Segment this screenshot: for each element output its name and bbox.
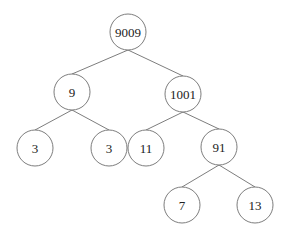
tree-node: 9009: [110, 14, 146, 50]
tree-edge: [146, 112, 183, 130]
node-label: 9009: [115, 25, 141, 40]
tree-node: 3: [91, 130, 127, 166]
node-label: 7: [179, 198, 186, 213]
tree-node: 91: [201, 129, 237, 165]
node-label: 13: [249, 198, 262, 213]
tree-node: 7: [164, 187, 200, 223]
tree-node: 11: [128, 130, 164, 166]
tree-edge: [219, 165, 255, 187]
tree-edges: [35, 50, 255, 187]
node-label: 3: [32, 141, 39, 156]
node-label: 1001: [170, 87, 196, 102]
node-label: 11: [140, 141, 153, 156]
tree-node: 1001: [165, 76, 201, 112]
tree-edge: [183, 112, 219, 129]
factor-tree-diagram: 900991001331191713: [0, 0, 288, 240]
tree-node: 13: [237, 187, 273, 223]
tree-edge: [72, 50, 128, 74]
node-label: 3: [106, 141, 113, 156]
node-label: 9: [69, 85, 76, 100]
tree-edge: [182, 165, 219, 187]
tree-edge: [72, 110, 109, 130]
node-label: 91: [213, 140, 226, 155]
tree-edge: [128, 50, 183, 76]
tree-edge: [35, 110, 72, 130]
tree-node: 3: [17, 130, 53, 166]
tree-node: 9: [54, 74, 90, 110]
